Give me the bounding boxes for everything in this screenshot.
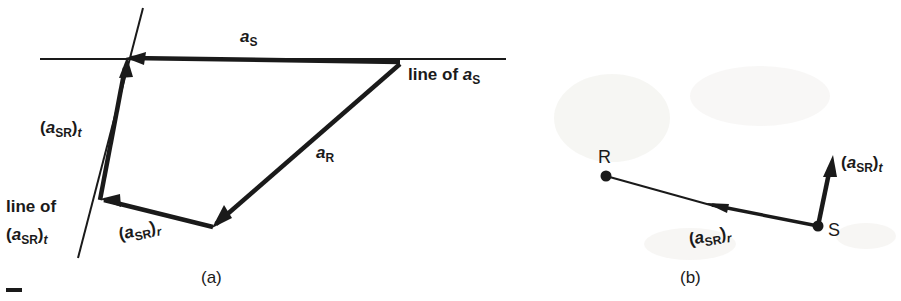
panel-b: R S (aSR)t (aSR)r (b) [598, 147, 883, 287]
caption-panel-a: (a) [201, 268, 222, 287]
vector-asr-r-arrowhead-b [706, 203, 729, 213]
label-asr-t-b: (aSR)t [841, 153, 883, 175]
figure-canvas: aS line of aS aR (aSR)t line of (aSR)t (… [0, 0, 901, 301]
label-asr-t-b-sub2: t [878, 161, 883, 175]
label-line-of-as-text: line of [408, 65, 463, 84]
vector-ar [216, 64, 400, 224]
label-as-sub: S [249, 35, 257, 49]
label-as: aS [240, 27, 257, 49]
label-asr-t: (aSR)t [40, 118, 82, 140]
vector-asr-r-arrowhead [100, 194, 121, 207]
label-ar: aR [316, 143, 334, 165]
label-asr-r: (aSR)r [117, 216, 164, 247]
label-point-r: R [598, 147, 611, 167]
label-asr-r-sub2: r [155, 224, 164, 239]
point-s-dot [813, 221, 824, 232]
label-ar-vec: a [316, 143, 325, 162]
label-line-of-asr-t-line2: (aSR)t [6, 225, 48, 247]
vector-asr-t [100, 68, 125, 200]
label-asr-t-vec: a [46, 118, 55, 137]
label-line-of-asr-t-line2-sub2: t [43, 233, 48, 247]
label-line-of-asr-t-line1: line of [6, 197, 56, 216]
label-line-of-as: line of aS [408, 65, 480, 87]
link-rs-thin-segment [606, 176, 714, 206]
label-asr-t-sub: SR [55, 126, 72, 140]
point-r-dot [601, 171, 612, 182]
label-asr-r-group: (aSR)r [117, 216, 164, 247]
label-line-of-as-vec: a [463, 65, 472, 84]
label-line-of-asr-t-line2-vec: a [12, 225, 21, 244]
caption-panel-b: (b) [680, 268, 701, 287]
label-asr-t-sub2: t [77, 126, 82, 140]
vector-ar-arrowhead [212, 205, 232, 228]
label-as-vec: a [240, 27, 249, 46]
label-asr-t-b-vec: a [847, 153, 856, 172]
figure-acceleration-polygon: aS line of aS aR (aSR)t line of (aSR)t (… [0, 0, 901, 301]
label-line-of-asr-t-line2-sub: SR [21, 233, 38, 247]
label-line-of-asr-t-line1-text: line of [6, 197, 56, 216]
label-line-of-as-sub: S [472, 73, 480, 87]
vector-asr-t-arrowhead-b [823, 155, 837, 177]
panel-a: aS line of aS aR (aSR)t line of (aSR)t (… [6, 8, 506, 287]
cropped-caption-mark [6, 288, 22, 292]
label-point-s: S [828, 220, 840, 240]
label-asr-t-b-sub: SR [856, 161, 873, 175]
label-ar-sub: R [325, 151, 334, 165]
